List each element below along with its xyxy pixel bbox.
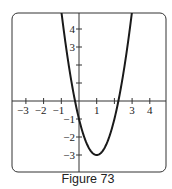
y-tick-label: −3 [63, 149, 75, 161]
chart: −3−2−1134−3−2−134 [0, 0, 172, 189]
x-tick-label: 1 [94, 104, 100, 116]
x-tick-label: 3 [129, 104, 135, 116]
y-tick-label: 4 [70, 23, 76, 35]
figure-caption: Figure 73 [0, 172, 172, 186]
x-tick-label: −2 [35, 104, 47, 116]
y-tick-label: −2 [63, 131, 75, 143]
x-tick-label: 4 [147, 104, 153, 116]
y-tick-label: 3 [70, 41, 76, 53]
y-tick-label: −1 [63, 113, 75, 125]
x-tick-label: −3 [17, 104, 29, 116]
